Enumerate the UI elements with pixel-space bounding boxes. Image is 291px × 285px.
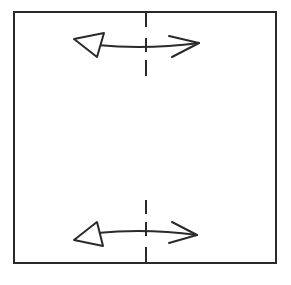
origami-diagram	[0, 0, 291, 285]
bottom-fold-arrow-icon	[74, 222, 197, 246]
top-fold-arrow-icon	[74, 33, 199, 57]
